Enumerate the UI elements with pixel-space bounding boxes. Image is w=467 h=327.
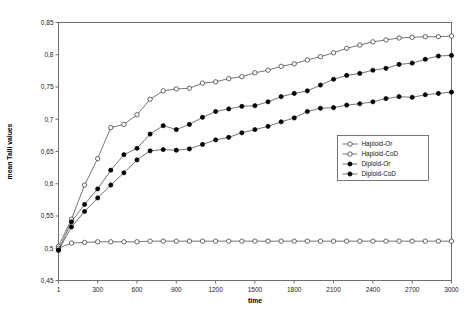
data-point-haploid-or bbox=[384, 38, 388, 42]
data-point-haploid-cod bbox=[318, 239, 322, 243]
x-tick-label: 2100 bbox=[326, 286, 341, 293]
data-point-haploid-or bbox=[318, 54, 322, 58]
x-tick-label: 600 bbox=[132, 286, 143, 293]
data-point-haploid-or bbox=[122, 122, 126, 126]
data-point-haploid-cod bbox=[371, 239, 375, 243]
data-point-diploid-cod bbox=[436, 91, 440, 95]
data-point-diploid-or bbox=[109, 168, 113, 172]
data-point-diploid-cod bbox=[371, 100, 375, 104]
data-point-diploid-or bbox=[358, 71, 362, 75]
y-tick-label: 0,7 bbox=[44, 116, 53, 123]
data-point-diploid-or bbox=[161, 124, 165, 128]
data-point-diploid-cod bbox=[96, 196, 100, 200]
data-point-diploid-cod bbox=[200, 142, 204, 146]
data-point-diploid-cod bbox=[69, 225, 73, 229]
data-point-haploid-cod bbox=[436, 239, 440, 243]
data-point-diploid-cod bbox=[240, 131, 244, 135]
data-point-diploid-cod bbox=[266, 124, 270, 128]
data-point-haploid-cod bbox=[423, 239, 427, 243]
data-point-diploid-cod bbox=[161, 147, 165, 151]
data-point-diploid-or bbox=[318, 83, 322, 87]
x-tick-label: 1800 bbox=[287, 286, 302, 293]
data-point-haploid-or bbox=[436, 34, 440, 38]
data-point-diploid-cod bbox=[56, 248, 60, 252]
data-point-diploid-or bbox=[122, 153, 126, 157]
legend-marker-haploid-or bbox=[348, 142, 352, 146]
x-tick-label: 2700 bbox=[405, 286, 420, 293]
data-point-haploid-or bbox=[174, 87, 178, 91]
x-tick-label: 1 bbox=[57, 286, 61, 293]
y-tick-label: 0,6 bbox=[44, 180, 53, 187]
data-point-diploid-cod bbox=[358, 102, 362, 106]
data-point-haploid-or bbox=[135, 113, 139, 117]
data-point-diploid-cod bbox=[345, 103, 349, 107]
data-point-haploid-or bbox=[358, 43, 362, 47]
data-point-diploid-cod bbox=[331, 106, 335, 110]
data-point-haploid-cod bbox=[187, 239, 191, 243]
data-point-haploid-cod bbox=[292, 239, 296, 243]
data-point-diploid-or bbox=[331, 77, 335, 81]
x-tick-label: 1500 bbox=[248, 286, 263, 293]
line-chart: 0,450,50,550,60,650,70,750,80,8513006009… bbox=[0, 0, 467, 327]
data-point-haploid-cod bbox=[200, 239, 204, 243]
data-point-diploid-or bbox=[82, 202, 86, 206]
data-point-diploid-cod bbox=[253, 127, 257, 131]
data-point-diploid-or bbox=[187, 122, 191, 126]
x-tick-label: 1200 bbox=[208, 286, 223, 293]
data-point-haploid-cod bbox=[122, 240, 126, 244]
data-point-diploid-cod bbox=[449, 90, 453, 94]
legend-label-diploid-or: Diploid-Or bbox=[362, 160, 392, 168]
legend-label-diploid-cod: Diploid-CoD bbox=[362, 170, 397, 178]
data-point-haploid-or bbox=[410, 35, 414, 39]
data-point-diploid-or bbox=[253, 104, 257, 108]
data-point-haploid-or bbox=[331, 51, 335, 55]
data-point-haploid-cod bbox=[331, 239, 335, 243]
data-point-diploid-or bbox=[240, 104, 244, 108]
data-point-diploid-or bbox=[371, 68, 375, 72]
y-tick-label: 0,45 bbox=[41, 277, 54, 284]
data-point-haploid-cod bbox=[397, 239, 401, 243]
data-point-haploid-or bbox=[148, 97, 152, 101]
data-point-haploid-or bbox=[305, 58, 309, 62]
data-point-diploid-or bbox=[174, 127, 178, 131]
y-tick-label: 0,65 bbox=[41, 148, 54, 155]
data-point-diploid-or bbox=[200, 115, 204, 119]
data-point-diploid-or bbox=[449, 53, 453, 57]
data-point-haploid-cod bbox=[384, 239, 388, 243]
y-axis-title: mean Talli values bbox=[6, 123, 13, 179]
data-point-haploid-cod bbox=[410, 239, 414, 243]
data-point-diploid-cod bbox=[109, 183, 113, 187]
data-point-haploid-cod bbox=[174, 239, 178, 243]
data-point-diploid-or bbox=[266, 100, 270, 104]
data-point-diploid-cod bbox=[135, 158, 139, 162]
data-point-haploid-cod bbox=[227, 239, 231, 243]
data-point-diploid-or bbox=[227, 107, 231, 111]
data-point-haploid-or bbox=[371, 40, 375, 44]
data-point-haploid-or bbox=[95, 156, 99, 160]
data-point-haploid-cod bbox=[358, 239, 362, 243]
data-point-haploid-cod bbox=[95, 240, 99, 244]
data-point-diploid-or bbox=[305, 89, 309, 93]
data-point-diploid-cod bbox=[423, 93, 427, 97]
chart-container: 0,450,50,550,60,650,70,750,80,8513006009… bbox=[0, 0, 467, 327]
x-axis-title: time bbox=[248, 297, 262, 304]
data-point-haploid-cod bbox=[344, 239, 348, 243]
data-point-diploid-cod bbox=[410, 95, 414, 99]
legend-label-haploid-or: Haploid-Or bbox=[362, 140, 394, 148]
legend-label-haploid-cod: Haploid-CoD bbox=[362, 150, 399, 158]
data-point-haploid-cod bbox=[213, 239, 217, 243]
data-point-diploid-or bbox=[69, 220, 73, 224]
data-point-diploid-or bbox=[423, 57, 427, 61]
x-tick-label: 2400 bbox=[366, 286, 381, 293]
data-point-haploid-or bbox=[200, 81, 204, 85]
data-point-diploid-cod bbox=[305, 109, 309, 113]
data-point-diploid-or bbox=[345, 73, 349, 77]
data-point-haploid-or bbox=[213, 80, 217, 84]
data-point-haploid-cod bbox=[449, 239, 453, 243]
data-point-diploid-cod bbox=[82, 209, 86, 213]
data-point-haploid-cod bbox=[305, 239, 309, 243]
data-point-diploid-cod bbox=[187, 147, 191, 151]
data-point-diploid-cod bbox=[122, 171, 126, 175]
data-point-diploid-or bbox=[96, 187, 100, 191]
data-point-haploid-or bbox=[240, 74, 244, 78]
